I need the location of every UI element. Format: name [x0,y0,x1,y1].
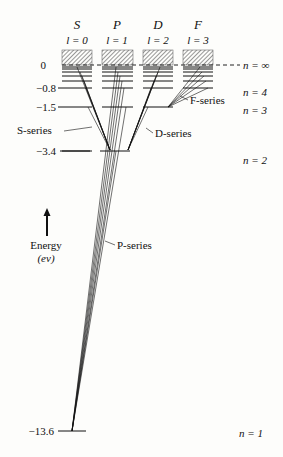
column-f-letter: F [193,17,203,32]
s-series-leader [64,127,92,131]
energy-tick-leaders [58,88,90,431]
p-series-label: P-series [117,239,152,251]
tick-minus-1-5: −1.5 [36,101,56,113]
column-p-l: l = 1 [106,34,127,46]
n-2-label: n = 2 [243,154,267,166]
column-headers: S l = 0 P l = 1 D l = 2 F l = 3 [66,17,209,46]
energy-level-diagram: S l = 0 P l = 1 D l = 2 F l = 3 [0,0,283,457]
tick-minus-0-8: −0.8 [36,82,56,94]
column-s-letter: S [74,17,81,32]
n-labels: n = ∞ n = 4 n = 3 n = 2 n = 1 [239,59,269,439]
n-1-label: n = 1 [239,427,263,439]
p-series-leader [105,241,115,245]
continuum-boxes [62,50,213,65]
n-infinity-label: n = ∞ [243,59,269,71]
column-p-letter: P [112,17,121,32]
n-3-label: n = 3 [243,104,267,116]
s-series-lines [77,67,110,150]
column-d-l: l = 2 [147,34,169,46]
column-s-l: l = 0 [66,34,88,46]
f-series-label: F-series [190,94,225,106]
column-d-letter: D [152,17,163,32]
s-series-label: S-series [17,124,52,136]
tick-minus-3-4: −3.4 [36,145,56,157]
tick-minus-13-6: −13.6 [29,425,55,437]
energy-axis-label: Energy [30,239,62,251]
energy-axis-unit: (ev) [37,252,54,265]
d-series-leader [146,128,153,133]
arrowhead-icon [44,208,51,216]
tick-0: 0 [41,59,47,71]
series-labels: S-series D-series F-series P-series [17,94,225,251]
energy-axis: Energy (ev) [30,208,62,265]
column-f-l: l = 3 [187,34,209,46]
d-series-label: D-series [155,127,192,139]
n-4-label: n = 4 [243,86,267,98]
